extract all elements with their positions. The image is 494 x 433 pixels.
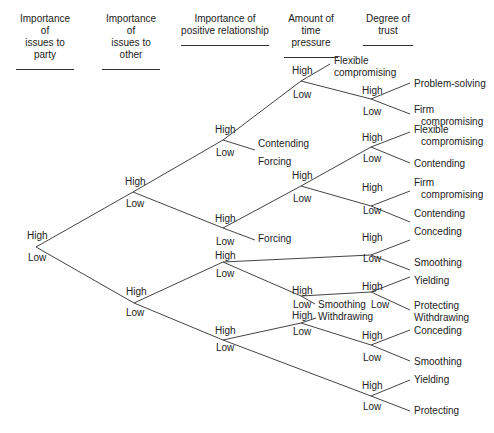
tree-edge <box>134 262 223 303</box>
outcome-smoothing: Smoothing <box>414 257 462 269</box>
column-header-trust: Degree oftrust <box>363 13 413 46</box>
header-line1: Importance of <box>16 13 74 37</box>
branch-label-high: High <box>292 310 313 322</box>
header-line1: Degree of <box>363 13 413 25</box>
branch-label-low: Low <box>293 326 311 338</box>
tree-edge <box>301 323 371 345</box>
outcome-firm: Firmcompromising <box>414 177 483 201</box>
column-header-other: Importance ofissues to other <box>102 13 160 70</box>
branch-label-high: High <box>362 182 383 194</box>
branch-label-high: High <box>125 176 146 188</box>
outcome-line2: compromising <box>414 189 483 201</box>
branch-label-low: Low <box>363 205 381 217</box>
branch-label-low: Low <box>363 401 381 413</box>
branch-label-high: High <box>362 232 383 244</box>
outcome-protecting: ProtectingWithdrawing <box>414 300 469 324</box>
tree-edge <box>301 81 371 99</box>
branch-label-high: High <box>362 281 383 293</box>
header-line2: issues to other <box>102 37 160 61</box>
branch-label-high: High <box>215 124 236 136</box>
outcome-line1: Smoothing <box>414 257 462 269</box>
branch-label-high: High <box>27 230 48 242</box>
outcome-line1: Protecting <box>414 300 469 312</box>
outcome-line1: Smoothing <box>414 356 462 368</box>
branch-label-high: High <box>292 65 313 77</box>
outcome-line1: Withdrawing <box>318 311 373 323</box>
branch-label-low: Low <box>371 299 389 311</box>
decision-tree-diagram: Importance ofissues to partyImportance o… <box>0 0 494 433</box>
outcome-yielding: Yielding <box>414 374 449 386</box>
column-header-party: Importance ofissues to party <box>16 13 74 70</box>
header-underline <box>181 45 269 46</box>
outcome-line1: Contending <box>258 138 309 150</box>
branch-label-high: High <box>215 325 236 337</box>
header-underline <box>102 69 160 70</box>
outcome-line1: Firm <box>414 104 483 116</box>
outcome-line1: Conceding <box>414 226 462 238</box>
outcome-line1: Contending <box>414 208 465 220</box>
outcome-line2: Withdrawing <box>414 312 469 324</box>
header-line2: trust <box>363 25 413 37</box>
branch-label-low: Low <box>216 236 234 248</box>
branch-label-high: High <box>215 250 236 262</box>
tree-edge <box>133 192 223 228</box>
outcome-contending: Contending <box>414 158 465 170</box>
outcome-protecting: Protecting <box>414 405 459 417</box>
header-line1: Importance of <box>102 13 160 37</box>
outcome-line1: Forcing <box>258 156 291 168</box>
outcome-problem-solving: Problem-solving <box>414 78 486 90</box>
branch-label-low: Low <box>28 252 46 264</box>
header-line2: time pressure <box>284 25 338 49</box>
tree-edge <box>36 192 133 247</box>
outcome-line2: compromising <box>414 136 483 148</box>
outcome-line1: Flexible <box>334 55 396 67</box>
tree-edge <box>134 303 223 340</box>
outcome-conceding: Conceding <box>414 226 462 238</box>
branch-label-high: High <box>215 213 236 225</box>
outcome-line1: Smoothing <box>318 299 366 311</box>
column-header-time: Amount oftime pressure <box>284 13 338 58</box>
branch-label-low: Low <box>126 198 144 210</box>
branch-label-high: High <box>362 132 383 144</box>
outcome-conceding: Conceding <box>414 325 462 337</box>
branch-label-low: Low <box>363 153 381 165</box>
outcome-line1: Firm <box>414 177 483 189</box>
outcome-line2: compromising <box>334 67 396 79</box>
branch-label-low: Low <box>363 106 381 118</box>
branch-label-low: Low <box>293 89 311 101</box>
branch-label-high: High <box>362 330 383 342</box>
header-line2: positive relationship <box>181 25 269 37</box>
tree-edge <box>301 186 371 206</box>
header-underline <box>16 69 74 70</box>
outcome-line1: Forcing <box>258 233 291 245</box>
outcome-line1: Conceding <box>414 325 462 337</box>
branch-label-low: Low <box>293 193 311 205</box>
header-line2: issues to party <box>16 37 74 61</box>
outcome-contending: Contending <box>258 138 309 150</box>
tree-edge <box>36 247 134 303</box>
outcome-flexible: Flexiblecompromising <box>334 55 396 79</box>
header-underline <box>363 45 413 46</box>
outcome-withdrawing: Withdrawing <box>318 311 373 323</box>
branch-label-high: High <box>292 170 313 182</box>
outcome-forcing: Forcing <box>258 156 291 168</box>
outcome-line1: Yielding <box>414 374 449 386</box>
outcome-line1: Yielding <box>414 275 449 287</box>
header-underline <box>284 57 338 58</box>
branch-label-high: High <box>362 85 383 97</box>
branch-label-low: Low <box>363 352 381 364</box>
header-line1: Amount of <box>284 13 338 25</box>
outcome-flexible: Flexiblecompromising <box>414 124 483 148</box>
outcome-line1: Problem-solving <box>414 78 486 90</box>
branch-label-low: Low <box>216 147 234 159</box>
tree-edge <box>133 140 223 192</box>
branch-label-low: Low <box>216 342 234 354</box>
branch-label-high: High <box>362 380 383 392</box>
outcome-forcing: Forcing <box>258 233 291 245</box>
outcome-line1: Protecting <box>414 405 459 417</box>
outcome-smoothing: Smoothing <box>414 356 462 368</box>
branch-label-high: High <box>126 286 147 298</box>
column-header-relationship: Importance ofpositive relationship <box>181 13 269 46</box>
outcome-line1: Contending <box>414 158 465 170</box>
header-line1: Importance of <box>181 13 269 25</box>
